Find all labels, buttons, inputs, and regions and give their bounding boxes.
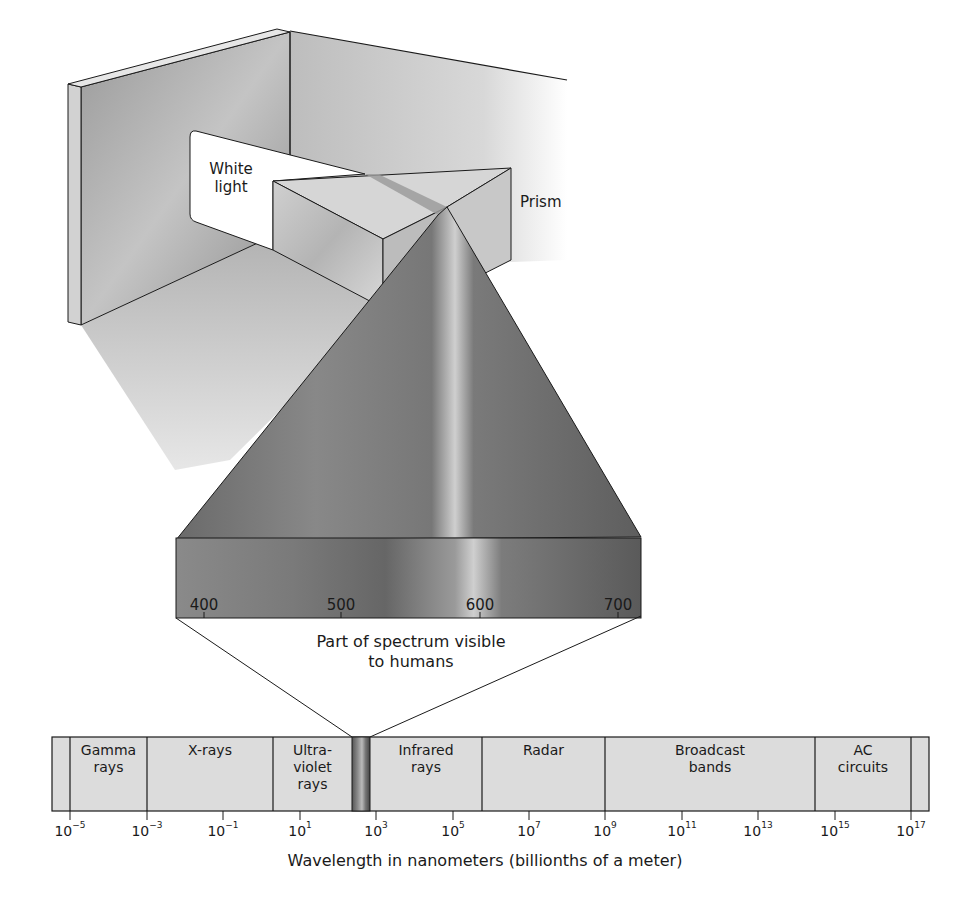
visible-caption-line2: to humans bbox=[276, 652, 546, 672]
band-radar: Radar bbox=[482, 742, 605, 759]
tick-1e9: 109 bbox=[575, 822, 635, 839]
tick-label-500: 500 bbox=[311, 596, 371, 614]
band-broadcast: Broadcast bands bbox=[605, 742, 815, 776]
band-infrared: Infrared rays bbox=[370, 742, 482, 776]
prism-label: Prism bbox=[520, 193, 562, 211]
diagram-artwork bbox=[0, 0, 970, 915]
visible-band bbox=[352, 737, 370, 811]
tick-label-700: 700 bbox=[588, 596, 648, 614]
left-wall-edge bbox=[68, 84, 81, 325]
tick-1e15: 1015 bbox=[805, 822, 865, 839]
tick-1e-1: 10−1 bbox=[193, 822, 253, 839]
tick-label-400: 400 bbox=[174, 596, 234, 614]
visible-caption: Part of spectrum visible to humans bbox=[276, 632, 546, 672]
axis-title: Wavelength in nanometers (billionths of … bbox=[0, 851, 970, 870]
tick-1e13: 1013 bbox=[728, 822, 788, 839]
white-light-label: White light bbox=[196, 160, 266, 196]
light-spectrum-diagram: White light Prism 400 500 600 700 Part o… bbox=[0, 0, 970, 915]
tick-1e7: 107 bbox=[499, 822, 559, 839]
band-ultraviolet: Ultra- violet rays bbox=[273, 742, 352, 793]
tick-1e3: 103 bbox=[346, 822, 406, 839]
band-ac-circuits: AC circuits bbox=[815, 742, 911, 776]
tick-1e-3: 10−3 bbox=[117, 822, 177, 839]
tick-1e11: 1011 bbox=[652, 822, 712, 839]
tick-label-600: 600 bbox=[450, 596, 510, 614]
tick-1e17: 1017 bbox=[881, 822, 941, 839]
axis-ticks bbox=[70, 811, 911, 820]
visible-caption-line1: Part of spectrum visible bbox=[276, 632, 546, 652]
band-x-rays: X-rays bbox=[147, 742, 273, 759]
tick-1e1: 101 bbox=[270, 822, 330, 839]
band-gamma-rays: Gamma rays bbox=[70, 742, 147, 776]
tick-1e-5: 10−5 bbox=[40, 822, 100, 839]
visible-spectrum-bar bbox=[176, 538, 641, 618]
tick-1e5: 105 bbox=[423, 822, 483, 839]
